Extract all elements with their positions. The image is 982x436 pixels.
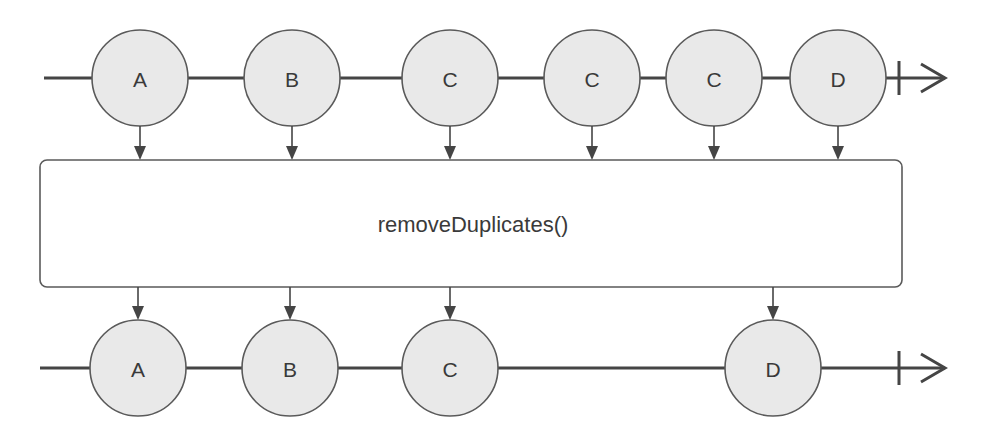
down-arrow-icon [586,126,598,160]
down-arrow-icon [444,126,456,160]
down-arrow-icon [832,126,844,160]
output-stream: ABCD [40,320,945,416]
down-arrow-icon [284,287,296,320]
marble-a: A [90,320,186,416]
marble-label: C [442,358,457,381]
input-stream: ABCCCD [44,30,945,126]
operator-box: removeDuplicates() [40,160,902,287]
marble-c: C [402,320,498,416]
down-arrow-icon [286,126,298,160]
marble-label: C [442,68,457,91]
marble-label: D [765,358,780,381]
marble-label: C [584,68,599,91]
marble-label: B [283,358,297,381]
down-arrow-icon [708,126,720,160]
marble-label: B [285,68,299,91]
down-arrow-icon [767,287,779,320]
diagram-canvas: ABCCCD removeDuplicates() ABCD [0,0,982,436]
down-arrow-icon [134,126,146,160]
marble-a: A [92,30,188,126]
output-connectors [132,287,779,320]
marble-label: A [133,68,147,91]
marble-label: D [830,68,845,91]
marble-b: B [244,30,340,126]
marble-d: D [790,30,886,126]
marble-c: C [544,30,640,126]
marble-c: C [402,30,498,126]
operator-label: removeDuplicates() [378,212,569,237]
down-arrow-icon [444,287,456,320]
marble-b: B [242,320,338,416]
marble-d: D [725,320,821,416]
marble-label: C [706,68,721,91]
input-connectors [134,126,844,160]
marble-diagram: ABCCCD removeDuplicates() ABCD [0,0,982,436]
down-arrow-icon [132,287,144,320]
marble-label: A [131,358,145,381]
marble-c: C [666,30,762,126]
